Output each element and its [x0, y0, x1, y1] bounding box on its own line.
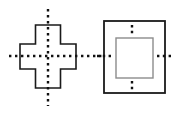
figure-nested-squares: [104, 21, 165, 93]
symmetry-diagram: [0, 0, 175, 115]
inner-square: [116, 38, 153, 78]
diagram-canvas: [0, 0, 175, 115]
